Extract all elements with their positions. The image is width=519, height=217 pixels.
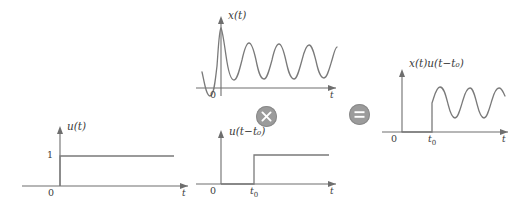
- label-u-of-t: u(t): [67, 121, 86, 132]
- label-t0-subscript: 0: [432, 139, 436, 147]
- label-origin-zero: 0: [391, 134, 397, 144]
- label-origin-zero: 0: [210, 186, 216, 196]
- figure-canvas: u(t) 1 0 t x(t) 0 t u: [0, 0, 519, 217]
- label-t-axis: t: [330, 91, 334, 100]
- plot-delayed-step: u(t−t₀) 0 t0 t: [196, 122, 346, 200]
- label-u-of-t-minus-t0: u(t−t₀): [229, 126, 265, 137]
- label-x-of-t: x(t): [228, 10, 246, 21]
- unit-step-trace: [60, 156, 174, 186]
- label-t0-tick: t0: [428, 134, 436, 147]
- label-t-axis: t: [502, 135, 506, 144]
- label-product-u-part: u(t−t₀): [427, 57, 463, 69]
- label-origin-zero: 0: [48, 188, 54, 198]
- delayed-step-trace: [221, 155, 329, 184]
- plot-signal-x-svg: [196, 10, 346, 106]
- plot-delayed-step-svg: [196, 122, 346, 200]
- label-origin-zero: 0: [210, 90, 216, 100]
- y-axis-arrowhead: [399, 69, 405, 77]
- plot-product: x(t)u(t−t₀) 0 t0 t: [382, 54, 518, 150]
- operator-equals-icon: [349, 104, 370, 125]
- label-t-axis: t: [330, 187, 334, 196]
- label-x-of-t-u-of-t-minus-t0: x(t)u(t−t₀): [409, 58, 464, 69]
- y-axis-arrowhead: [218, 16, 224, 24]
- plot-unit-step: u(t) 1 0 t: [22, 118, 202, 200]
- plot-signal-x: x(t) 0 t: [196, 10, 346, 106]
- label-t-axis: t: [182, 189, 186, 198]
- equals-bars-icon: [349, 104, 370, 125]
- label-product-x-part: x(t): [409, 57, 427, 69]
- label-t0-subscript: 0: [254, 191, 258, 199]
- label-level-one: 1: [47, 150, 53, 160]
- label-u-of-t-minus-t0-text: u(t−t₀): [229, 125, 265, 137]
- label-t0-tick: t0: [250, 186, 258, 199]
- product-trace: [402, 87, 505, 132]
- y-axis-arrowhead: [218, 130, 224, 138]
- signal-x-trace: [202, 28, 337, 96]
- y-axis-arrowhead: [57, 126, 63, 134]
